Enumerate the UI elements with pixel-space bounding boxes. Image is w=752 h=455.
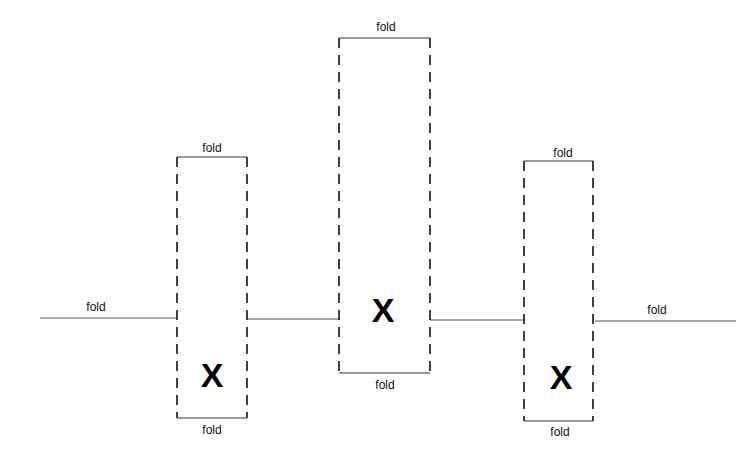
box2-x-mark: X — [372, 293, 395, 327]
box2-top-label: fold — [376, 20, 395, 34]
box3-x-mark: X — [550, 360, 573, 394]
box1-top-label: fold — [202, 141, 221, 155]
fold-label-left: fold — [86, 300, 105, 314]
box1-x-mark: X — [201, 358, 224, 392]
box3-top-label: fold — [553, 146, 572, 160]
box3-bottom-label: fold — [550, 425, 569, 439]
box1-bottom-label: fold — [202, 423, 221, 437]
box2-bottom-label: fold — [375, 378, 394, 392]
fold-label-right: fold — [647, 303, 666, 317]
